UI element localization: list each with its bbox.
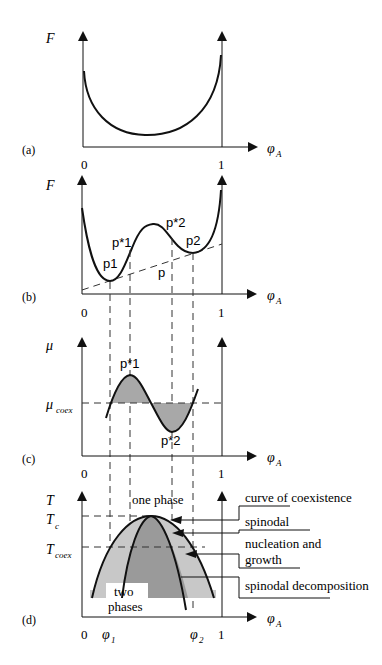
panel-label: (d) — [22, 613, 36, 627]
point-pstar2: p*2 — [161, 433, 181, 448]
phase-diagram-figure: F (a) 0 1 φ A F (b) 0 1 φ A p1 p*1 p*2 p… — [0, 0, 382, 665]
point-p2: p2 — [186, 233, 200, 248]
mu-coex-label: μ — [45, 397, 53, 412]
tick-0: 0 — [81, 466, 88, 481]
tick-0: 0 — [81, 305, 88, 320]
x-axis-label: φ — [267, 288, 275, 303]
point-pstar1: p*1 — [120, 356, 140, 371]
x-axis-label-sub: A — [275, 458, 282, 468]
tc-label: T — [46, 512, 55, 527]
legend-nucleation-1: nucleation and — [245, 536, 322, 551]
x-axis-label-sub: A — [275, 619, 282, 629]
tick-1: 1 — [218, 305, 225, 320]
legend-nucleation-2: growth — [245, 552, 282, 567]
two-phases-label-2: phases — [108, 599, 143, 614]
tc-sub: c — [55, 521, 59, 531]
legend-spinodal-decomposition: spinodal decomposition — [245, 578, 369, 593]
tick-1: 1 — [218, 157, 225, 172]
x-axis-label: φ — [267, 450, 275, 465]
y-axis-label: μ — [45, 338, 53, 353]
y-axis-label: F — [45, 178, 55, 193]
two-phases-label-1: two — [114, 584, 134, 599]
phi1-sub: 1 — [111, 635, 116, 645]
point-pstar1: p*1 — [112, 235, 132, 250]
tcoex-sub: coex — [55, 550, 71, 560]
mu-coex-sub: coex — [56, 405, 72, 415]
x-axis-label-sub: A — [275, 296, 282, 306]
phi2-sub: 2 — [199, 635, 204, 645]
tcoex-label: T — [46, 542, 55, 557]
panel-label: (b) — [22, 290, 36, 304]
tick-0: 0 — [81, 627, 88, 642]
panel-b: F (b) 0 1 φ A p1 p*1 p*2 p2 p — [22, 178, 282, 320]
point-pstar2: p*2 — [166, 215, 186, 230]
x-axis-label-sub: A — [275, 149, 282, 159]
phi2-label: φ — [190, 627, 198, 642]
point-p: p — [158, 265, 165, 280]
point-p1: p1 — [103, 256, 117, 271]
tick-1: 1 — [218, 627, 225, 642]
panel-c: μ μ coex (c) 0 1 φ A p*1 p*2 — [22, 338, 282, 481]
phi1-label: φ — [102, 627, 110, 642]
x-axis-label: φ — [267, 611, 275, 626]
tick-1: 1 — [218, 466, 225, 481]
legend-spinodal: spinodal — [245, 514, 289, 529]
free-energy-curve — [84, 55, 221, 135]
x-axis-label: φ — [267, 141, 275, 156]
panel-label: (c) — [22, 452, 35, 466]
tick-0: 0 — [81, 157, 88, 172]
panel-d: T T c T coex (d) 0 1 φ 1 φ 2 φ A one pha… — [22, 490, 369, 645]
y-axis-label: F — [45, 31, 55, 46]
panel-a: F (a) 0 1 φ A — [22, 31, 282, 172]
y-axis-label: T — [46, 493, 55, 508]
panel-label: (a) — [22, 143, 35, 157]
legend-coexistence: curve of coexistence — [245, 490, 352, 505]
one-phase-label: one phase — [132, 492, 184, 507]
